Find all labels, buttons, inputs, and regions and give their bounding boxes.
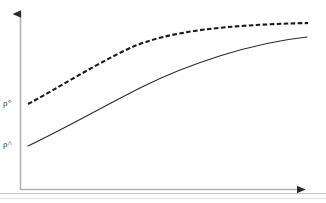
figure-container: ρ° ρ^ <box>0 0 326 203</box>
chart-canvas <box>0 0 326 203</box>
footer-divider-bottom <box>0 198 326 199</box>
footer-divider-top <box>0 193 326 194</box>
y-axis-label-rho-zero: ρ° <box>3 99 12 108</box>
curve-rho-zero-dashed <box>28 23 308 104</box>
y-axis-label-rho-hat: ρ^ <box>3 140 12 149</box>
curve-rho-hat-solid <box>28 37 307 146</box>
